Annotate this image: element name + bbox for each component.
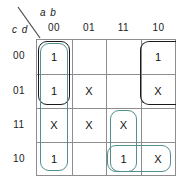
row-header-3: 10 [6, 153, 32, 165]
cell-r00-c01 [72, 39, 106, 74]
cell-r01-c10: X [141, 74, 175, 108]
row-header-0: 00 [6, 50, 32, 62]
column-axis-label: a b [40, 8, 57, 18]
row-header-1: 01 [6, 85, 32, 97]
column-header-2: 11 [106, 22, 141, 34]
row-header-2: 11 [6, 119, 32, 131]
gridline-h-4 [36, 175, 176, 176]
karnaugh-map: a b c d 00 01 11 10 00 01 11 10 [0, 0, 176, 181]
cell-r01-c11 [106, 74, 141, 108]
cell-r01-c00: 1 [36, 74, 72, 108]
cell-r00-c10: 1 [141, 39, 175, 74]
cell-r00-c00: 1 [36, 39, 72, 74]
kmap-grid: 1 1 1 X X X X X 1 1 X [36, 39, 176, 176]
column-header-0: 00 [36, 22, 72, 34]
cell-r11-c00: X [36, 108, 72, 142]
row-axis-label: c d [12, 25, 28, 35]
cell-r10-c00: 1 [36, 142, 72, 175]
cell-r11-c10 [141, 108, 175, 142]
cell-r00-c11 [106, 39, 141, 74]
cell-r10-c01 [72, 142, 106, 175]
cell-r11-c11: X [106, 108, 141, 142]
column-header-1: 01 [72, 22, 106, 34]
cell-r01-c01: X [72, 74, 106, 108]
column-header-3: 10 [141, 22, 176, 34]
cell-r11-c01: X [72, 108, 106, 142]
cell-r10-c10: X [141, 142, 175, 175]
cell-r10-c11: 1 [106, 142, 141, 175]
